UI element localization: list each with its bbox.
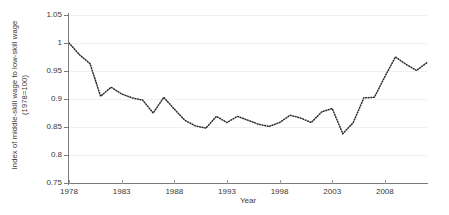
x-axis-tick-label: 1988: [154, 187, 194, 196]
plot-area: [69, 15, 427, 183]
x-axis-title: Year: [69, 196, 427, 205]
x-axis-tick: [280, 180, 281, 184]
y-axis-title-line1: Index of middle-skill wage to low-skill …: [10, 21, 19, 170]
x-axis-line: [69, 183, 428, 184]
y-axis-tick: [64, 155, 69, 156]
x-axis-tick: [385, 180, 386, 184]
y-axis-tick: [64, 99, 69, 100]
x-axis-tick: [332, 180, 333, 184]
y-axis-tick-label: 0.85: [32, 122, 62, 131]
y-axis-tick-label: 1: [32, 38, 62, 47]
y-axis-tick: [64, 15, 69, 16]
y-axis-tick: [64, 127, 69, 128]
x-axis-tick: [227, 180, 228, 184]
y-axis-tick-label: 0.9: [32, 94, 62, 103]
x-axis-tick: [122, 180, 123, 184]
y-axis-tick-label: 0.75: [32, 178, 62, 187]
y-axis-tick-label: 0.95: [32, 66, 62, 75]
y-axis-tick-label: 1.05: [32, 10, 62, 19]
y-axis-tick: [64, 71, 69, 72]
y-axis-tick-label: 0.8: [32, 150, 62, 159]
chart-figure: Index of middle-skill wage to low-skill …: [0, 0, 449, 215]
data-series-line: [69, 15, 427, 183]
x-axis-tick: [174, 180, 175, 184]
x-axis-tick-label: 2003: [312, 187, 352, 196]
x-axis-tick-label: 1983: [102, 187, 142, 196]
x-axis-tick-label: 1998: [260, 187, 300, 196]
x-axis-tick-label: 1978: [49, 187, 89, 196]
x-axis-tick-label: 1993: [207, 187, 247, 196]
x-axis-tick: [69, 180, 70, 184]
wage-index-polyline: [69, 43, 427, 134]
x-axis-tick-label: 2008: [365, 187, 405, 196]
y-axis-title-line2: (1978=100): [20, 21, 30, 170]
y-axis-tick: [64, 43, 69, 44]
